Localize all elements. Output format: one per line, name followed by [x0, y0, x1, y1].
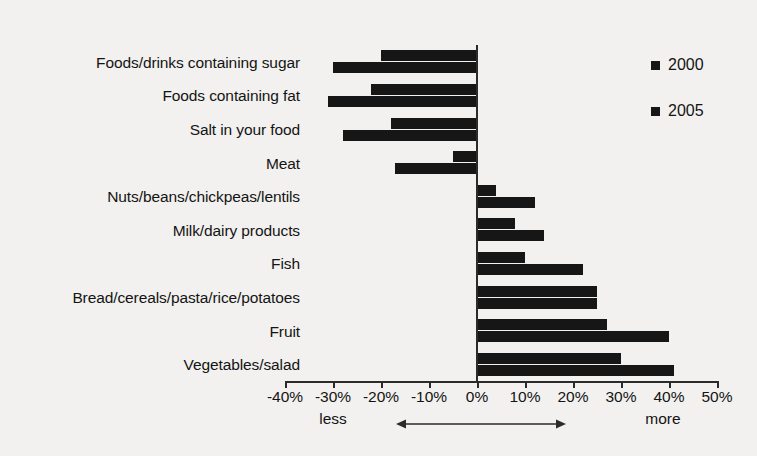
x-tick-label: 50%	[701, 389, 732, 405]
x-axis-line	[285, 381, 717, 383]
bar-2005-9	[477, 365, 674, 376]
bar-2000-0	[381, 50, 477, 61]
bar-2000-1	[371, 84, 477, 95]
bar-2005-2	[343, 130, 477, 141]
bar-2005-6	[477, 264, 583, 275]
x-tick-label: -40%	[267, 389, 303, 405]
bar-2005-4	[477, 197, 535, 208]
legend-swatch-icon	[651, 61, 660, 70]
zero-axis-line	[476, 45, 478, 382]
legend-swatch-icon	[651, 107, 660, 116]
x-tick-label: 40%	[653, 389, 684, 405]
bar-2000-8	[477, 319, 607, 330]
bar-2005-0	[333, 62, 477, 73]
legend-item-2000: 2000	[651, 57, 704, 73]
category-label: Vegetables/salad	[184, 357, 300, 373]
bar-2000-5	[477, 218, 515, 229]
axis-annotation-more: more	[645, 411, 680, 427]
bar-2005-3	[395, 163, 477, 174]
x-tick-label: 20%	[557, 389, 588, 405]
bar-2000-9	[477, 353, 621, 364]
x-tick	[621, 381, 623, 388]
double-arrow-icon	[396, 418, 566, 430]
x-tick	[381, 381, 383, 388]
x-tick-label: 30%	[605, 389, 636, 405]
x-tick	[333, 381, 335, 388]
bar-2000-4	[477, 185, 496, 196]
bar-2000-6	[477, 252, 525, 263]
x-tick	[669, 381, 671, 388]
x-tick-label: 10%	[509, 389, 540, 405]
x-tick	[717, 381, 719, 388]
x-tick	[477, 381, 479, 388]
category-label: Bread/cereals/pasta/rice/potatoes	[72, 290, 300, 306]
x-tick-label: 0%	[466, 389, 488, 405]
category-label: Foods containing fat	[162, 88, 300, 104]
x-tick	[525, 381, 527, 388]
legend-label: 2000	[668, 57, 704, 73]
x-tick	[573, 381, 575, 388]
legend-item-2005: 2005	[651, 103, 704, 119]
bar-2005-1	[328, 96, 477, 107]
horizontal-bar-chart: Foods/drinks containing sugarFoods conta…	[0, 0, 757, 456]
x-tick	[429, 381, 431, 388]
category-label: Nuts/beans/chickpeas/lentils	[107, 189, 300, 205]
bar-2005-8	[477, 331, 669, 342]
axis-annotation-less: less	[319, 411, 347, 427]
x-tick-label: -10%	[411, 389, 447, 405]
legend-label: 2005	[668, 103, 704, 119]
bar-2005-7	[477, 298, 597, 309]
bar-2005-5	[477, 230, 544, 241]
category-label: Salt in your food	[190, 122, 300, 138]
bar-2000-3	[453, 151, 477, 162]
x-tick	[285, 381, 287, 388]
category-label: Foods/drinks containing sugar	[96, 55, 300, 71]
x-tick-label: -30%	[315, 389, 351, 405]
plot-area	[285, 45, 717, 381]
bar-2000-2	[391, 118, 477, 129]
x-tick-label: -20%	[363, 389, 399, 405]
category-label: Milk/dairy products	[173, 223, 300, 239]
bar-2000-7	[477, 286, 597, 297]
